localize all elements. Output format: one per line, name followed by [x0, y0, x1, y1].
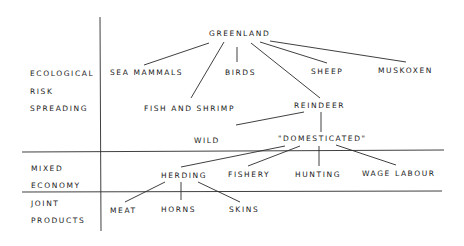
diagram-canvas: ECOLOGICAL RISK SPREADING MIXED ECONOMY … [0, 0, 464, 246]
edge-greenland-sea-mammals [144, 43, 209, 65]
horizontal-divider-upper [22, 150, 444, 152]
node-herding: HERDING [161, 172, 207, 180]
edge-greenland-sheep [260, 42, 327, 63]
node-wage-labour: WAGE LABOUR [362, 170, 436, 178]
edge-greenland-reindeer [251, 43, 320, 98]
node-domesticated: "DOMESTICATED" [278, 135, 367, 143]
node-horns: HORNS [161, 206, 196, 214]
node-birds: BIRDS [225, 69, 256, 77]
category-label-ecological: ECOLOGICAL [30, 70, 94, 78]
edge-reindeer-wild [236, 112, 304, 125]
category-label-joint: JOINT [31, 200, 60, 208]
edge-domesticated-fishery [248, 146, 300, 166]
vertical-divider [100, 17, 101, 231]
category-label-economy: ECONOMY [31, 182, 81, 190]
node-reindeer: REINDEER [294, 102, 345, 110]
horizontal-divider-lower [22, 191, 442, 192]
edge-greenland-fish-shrimp [191, 42, 224, 98]
node-sea-mammals: SEA MAMMALS [110, 69, 183, 77]
node-muskoxen: MUSKOXEN [378, 67, 433, 75]
node-greenland: GREENLAND [209, 30, 270, 38]
node-wild: WILD [194, 137, 220, 145]
node-skins: SKINS [229, 206, 259, 214]
node-fishery: FISHERY [228, 171, 270, 179]
category-label-products: PRODUCTS [31, 217, 85, 225]
category-label-risk: RISK [30, 88, 54, 96]
node-meat: MEAT [110, 207, 137, 215]
node-hunting: HUNTING [295, 171, 341, 179]
node-fish-and-shrimp: FISH AND SHRIMP [144, 105, 235, 113]
edge-domesticated-wage-labour [336, 145, 396, 165]
node-sheep: SHEEP [311, 68, 343, 76]
edge-domesticated-herding [181, 146, 285, 167]
category-label-mixed: MIXED [31, 165, 63, 173]
category-label-spreading: SPREADING [30, 105, 88, 113]
